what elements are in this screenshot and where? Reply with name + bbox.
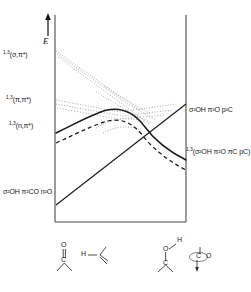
atom-label-left-carbon: C xyxy=(61,256,66,264)
energy-axis-label: E xyxy=(43,36,49,46)
right-radical-arrow-head xyxy=(195,267,199,272)
left-c-methyl-a xyxy=(57,263,64,271)
atom-label-right-carbon: C xyxy=(163,259,168,267)
config-label-ground: σ²OH π²CO n²O xyxy=(3,188,52,196)
multiplicity-biradical-open: 1,3 xyxy=(186,146,193,152)
config-label-biradical-open: 1,3(σ²OH π²O πC pC) xyxy=(186,148,250,156)
state-label-sigma-pi-star: 1,3(σ,π*) xyxy=(3,51,28,59)
pi-pi-star-shallow-line-a xyxy=(56,100,176,112)
diagram-canvas xyxy=(0,0,251,292)
sigma-pi-star-descending-line-c xyxy=(58,57,149,124)
atom-label-left-hydrogen: H xyxy=(81,250,86,258)
atom-label-left-oxygen: O xyxy=(61,241,66,249)
energy-axis-arrow xyxy=(45,13,51,36)
state-label-pi-pi-star: 1,3(π,π*) xyxy=(6,96,31,104)
state-label-n-pi-star: 1,3(n,π*) xyxy=(9,122,33,130)
left-donor-bond-a xyxy=(100,247,106,255)
config-label-biradical-open-text: (σ²OH π²O πC pC) xyxy=(193,148,251,155)
config-label-biradical-closed: σ²OH π²O p²C xyxy=(189,106,233,114)
state-label-sigma-pi-star-text: (σ,π*) xyxy=(10,51,28,58)
right-o-h-bond xyxy=(169,244,176,249)
dashed-correlation-path xyxy=(56,120,186,170)
atom-label-right-oxygen: O xyxy=(163,245,168,253)
multiplicity-sigma-pi-star: 1,3 xyxy=(3,49,10,55)
triplet-correlation-curve xyxy=(56,120,186,170)
left-c-methyl-b xyxy=(64,263,72,271)
atom-label-right-radical-carbon: C xyxy=(196,252,201,260)
config-label-biradical-closed-text: σ²OH π²O p²C xyxy=(189,106,233,113)
sigma-pi-star-descending-line xyxy=(56,51,151,114)
state-correlation-diagram: E 1,3(σ,π*) 1,3(π,π*) 1,3(n,π*) σ²OH π²C… xyxy=(0,0,251,292)
ascending-dotted-line-a xyxy=(96,92,152,123)
pi-pi-star-shallow-line-b xyxy=(56,104,172,116)
multiplicity-pi-pi-star: 1,3 xyxy=(6,94,13,100)
state-label-n-pi-star-text: (n,π*) xyxy=(16,122,33,129)
atom-label-right-hydrogen: H xyxy=(177,236,182,244)
atom-label-right-terminal-oxygen: O xyxy=(206,252,211,260)
state-label-pi-pi-star-text: (π,π*) xyxy=(13,96,31,103)
multiplicity-n-pi-star: 1,3 xyxy=(9,120,16,126)
config-label-ground-text: σ²OH π²CO n²O xyxy=(3,188,52,195)
energy-arrow-head xyxy=(45,13,51,20)
ascending-dotted-line-b xyxy=(104,86,140,110)
